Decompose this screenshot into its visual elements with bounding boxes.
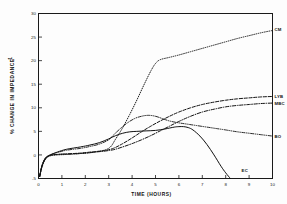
y-tick-label: 0 — [33, 153, 36, 158]
curve-cm — [40, 30, 273, 176]
x-tick-label: 1 — [61, 182, 64, 187]
curve-ec — [40, 127, 231, 179]
y-tick-label: 10 — [31, 105, 37, 110]
y-tick-label: 25 — [31, 35, 37, 40]
x-tick-label: 7 — [201, 182, 204, 187]
series-label-lyb: LYB — [275, 94, 284, 99]
curve-mbc — [40, 103, 273, 177]
curve-lyb — [40, 96, 273, 176]
x-tick-label: 4 — [131, 182, 134, 187]
y-tick-label: 20 — [31, 58, 37, 63]
y-tick-label: 5 — [33, 129, 36, 134]
y-tick-label: 15 — [31, 82, 37, 87]
y-tick-label: -5 — [32, 176, 37, 181]
series-label-bo: BO — [275, 134, 282, 139]
y-tick-label: 30 — [31, 11, 37, 16]
x-tick-label: 9 — [248, 182, 251, 187]
chart-svg: 012345678910-5051015202530TIME (HOURS)% … — [0, 0, 287, 204]
svg-text:% CHANGE IN IMPEDANCE: % CHANGE IN IMPEDANCE — [10, 58, 15, 134]
x-tick-label: 2 — [84, 182, 87, 187]
series-label-mbc: MBC — [275, 101, 285, 106]
x-tick-label: 3 — [107, 182, 110, 187]
svg-text:-1: -1 — [8, 56, 13, 61]
x-tick-label: 0 — [37, 182, 40, 187]
x-tick-label: 6 — [178, 182, 181, 187]
y-axis-title: % CHANGE IN IMPEDANCE-1 — [8, 56, 15, 133]
x-axis-title: TIME (HOURS) — [131, 192, 172, 197]
x-tick-label: 5 — [154, 182, 157, 187]
x-tick-label: 10 — [270, 182, 276, 187]
impedance-time-chart: 012345678910-5051015202530TIME (HOURS)% … — [0, 0, 287, 204]
curve-bo — [40, 115, 273, 176]
series-label-cm: CM — [275, 27, 282, 32]
series-label-ec: EC — [242, 168, 248, 173]
x-tick-label: 8 — [224, 182, 227, 187]
